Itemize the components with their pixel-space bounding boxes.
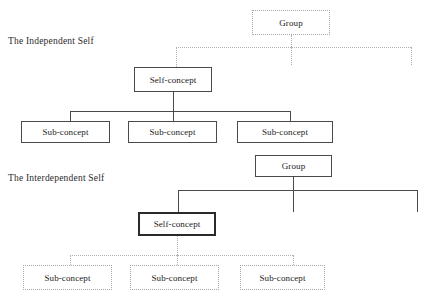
independent-group-node[interactable]: Group [252, 10, 330, 35]
diagram-canvas: The Independent Self Group Self-concept … [0, 0, 429, 303]
independent-sub-drop-3 [290, 111, 291, 121]
independent-group-drop-right [411, 47, 412, 65]
section-label-interdependent-self: The Interdependent Self [8, 173, 104, 183]
interdependent-sub-concept-label-3: Sub-concept [259, 273, 305, 283]
interdependent-sub-drop-2 [177, 255, 178, 265]
interdependent-group-drop-left [178, 190, 179, 212]
interdependent-self-concept-node[interactable]: Self-concept [138, 212, 216, 236]
interdependent-sub-drop-3 [293, 255, 294, 265]
independent-sub-concept-label-1: Sub-concept [42, 127, 88, 137]
interdependent-sub-concept-node-3[interactable]: Sub-concept [240, 265, 325, 290]
independent-sub-concept-node-1[interactable]: Sub-concept [21, 121, 110, 143]
interdependent-sub-drop-1 [70, 255, 71, 265]
independent-sub-concept-label-3: Sub-concept [262, 127, 308, 137]
interdependent-group-node[interactable]: Group [255, 155, 332, 177]
interdependent-group-drop-middle [293, 190, 294, 212]
interdependent-group-drop-right [417, 190, 418, 212]
independent-self-concept-label: Self-concept [150, 75, 197, 85]
interdependent-self-bus [70, 255, 293, 256]
independent-group-bus [176, 47, 411, 48]
interdependent-self-concept-label: Self-concept [154, 219, 201, 229]
interdependent-sub-concept-label-1: Sub-concept [44, 273, 90, 283]
independent-sub-drop-2 [173, 111, 174, 121]
independent-sub-drop-1 [70, 111, 71, 121]
interdependent-self-stem [177, 236, 178, 255]
independent-group-label: Group [279, 18, 303, 28]
interdependent-sub-concept-node-2[interactable]: Sub-concept [130, 265, 219, 290]
section-label-independent-self: The Independent Self [8, 36, 94, 46]
independent-group-drop-left [176, 47, 177, 67]
independent-self-concept-node[interactable]: Self-concept [134, 67, 212, 92]
interdependent-group-label: Group [282, 161, 306, 171]
interdependent-sub-concept-label-2: Sub-concept [151, 273, 197, 283]
independent-sub-concept-node-2[interactable]: Sub-concept [128, 121, 217, 143]
independent-sub-concept-node-3[interactable]: Sub-concept [237, 121, 333, 143]
interdependent-sub-concept-node-1[interactable]: Sub-concept [23, 265, 112, 290]
interdependent-group-stem [293, 177, 294, 190]
independent-sub-concept-label-2: Sub-concept [149, 127, 195, 137]
independent-group-drop-middle [291, 47, 292, 65]
interdependent-group-bus [178, 190, 418, 191]
independent-group-stem [291, 35, 292, 47]
independent-self-stem [173, 92, 174, 111]
independent-self-bus [70, 111, 290, 112]
